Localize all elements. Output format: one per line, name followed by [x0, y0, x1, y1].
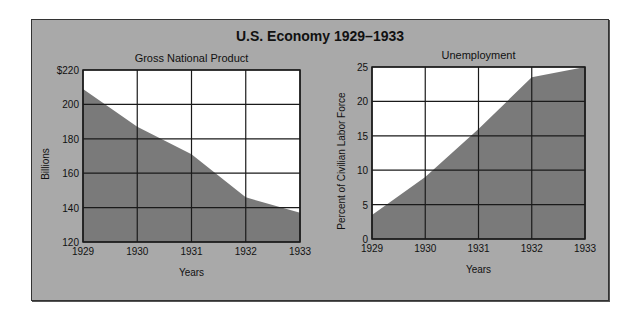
- unemployment-chart: 051015202519291930193119321933YearsPerce…: [336, 62, 597, 275]
- x-tick-label: 1931: [467, 243, 490, 254]
- x-tick-label: 1932: [235, 246, 258, 257]
- x-tick-label: 1933: [574, 243, 597, 254]
- x-tick-label: 1932: [521, 243, 544, 254]
- y-tick-label: 20: [357, 96, 369, 107]
- y-tick-label: 160: [62, 168, 79, 179]
- x-axis-label: Years: [466, 264, 491, 275]
- y-tick-label: $220: [57, 65, 80, 76]
- x-tick-label: 1930: [414, 243, 437, 254]
- charts-svg: 120140160180200$22019291930193119321933Y…: [0, 0, 640, 319]
- y-tick-label: 25: [357, 62, 369, 73]
- x-axis-label: Years: [179, 267, 204, 278]
- y-axis-label: Billions: [40, 148, 51, 180]
- y-tick-label: 200: [62, 99, 79, 110]
- x-tick-label: 1930: [126, 246, 149, 257]
- y-tick-label: 15: [357, 131, 369, 142]
- x-tick-label: 1931: [180, 246, 203, 257]
- x-tick-label: 1929: [361, 243, 384, 254]
- y-tick-label: 140: [62, 203, 79, 214]
- x-tick-label: 1933: [289, 246, 312, 257]
- x-tick-label: 1929: [72, 246, 95, 257]
- y-tick-label: 180: [62, 134, 79, 145]
- y-tick-label: 5: [362, 200, 368, 211]
- y-tick-label: 10: [357, 165, 369, 176]
- gnp-chart: 120140160180200$22019291930193119321933Y…: [40, 65, 312, 278]
- y-axis-label: Percent of Civilian Labor Force: [336, 92, 347, 230]
